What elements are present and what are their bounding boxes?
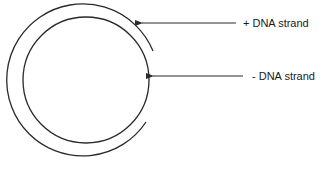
plus-strand-arc <box>7 4 153 156</box>
plus-strand-label: + DNA strand <box>243 17 309 29</box>
minus-strand-circle <box>23 17 149 143</box>
minus-strand-label: - DNA strand <box>252 70 315 82</box>
